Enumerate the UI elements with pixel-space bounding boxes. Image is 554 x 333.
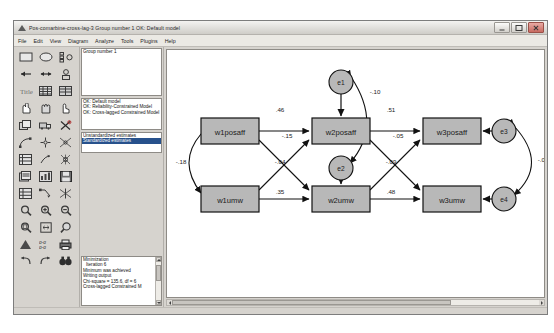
variable-node-w2umw[interactable]: w2umw (312, 186, 370, 212)
duplicate-objects-tool[interactable] (16, 117, 35, 133)
specification-search-tool[interactable] (56, 253, 75, 269)
menu-item-help[interactable]: Help (165, 38, 176, 44)
cov-w1posaff-w1umw-arrow (189, 134, 201, 193)
horizontal-scroll-thumb[interactable] (172, 300, 451, 305)
path-label-cov-e3-e4: -.05 (538, 156, 545, 163)
draw-covariance-double-arrow-tool[interactable] (36, 66, 55, 82)
minimize-button[interactable] (494, 22, 510, 33)
zoom-out-tool[interactable] (56, 202, 75, 218)
output-log-panel[interactable]: Minimization Iteration 6 Minimum was ach… (81, 256, 162, 306)
zoom-page-tool[interactable] (16, 219, 35, 235)
change-shape-of-objects-tool[interactable] (16, 134, 35, 150)
amos-graphics-window: Pos-comarbine-cross-lag-3 Group number 1… (13, 20, 548, 315)
move-objects-tool[interactable] (36, 117, 55, 133)
menu-item-analyze[interactable]: Analyze (95, 38, 114, 44)
undo-tool[interactable] (16, 253, 35, 269)
menu-item-file[interactable]: File (18, 38, 27, 44)
scroll-down-arrow[interactable] (156, 300, 161, 305)
erase-objects-tool[interactable] (56, 117, 75, 133)
object-properties-tool[interactable] (16, 185, 35, 201)
maximize-button[interactable] (511, 22, 527, 33)
error-label-e4: e4 (500, 196, 508, 203)
variable-node-w3umw[interactable]: w3umw (423, 186, 481, 212)
deselect-all-objects-tool[interactable] (56, 100, 75, 116)
rotate-indicators-tool[interactable] (36, 134, 55, 150)
select-one-object-tool[interactable] (16, 100, 35, 116)
error-label-e1: e1 (337, 79, 345, 86)
path-label-w2umw-w3posaff: -.09 (386, 158, 397, 165)
fit-to-page-tool[interactable] (36, 219, 55, 235)
draw-latent-with-indicators-tool[interactable] (56, 49, 75, 65)
window-titlebar: Pos-comarbine-cross-lag-3 Group number 1… (14, 21, 547, 35)
path-label-cov-w1posaff-w1umw: -.18 (176, 158, 187, 165)
cov-e3-e4-arrow (514, 126, 532, 195)
touch-up-a-variable-tool[interactable] (56, 151, 75, 167)
draw-path-single-arrow-tool[interactable] (16, 66, 35, 82)
model-row-cross-lagged[interactable]: OK: Cross-lagged Constrained Model (82, 110, 161, 115)
variable-node-w2posaff[interactable]: w2posaff (312, 118, 370, 144)
list-variables-in-dataset-tool[interactable] (36, 83, 55, 99)
loupe-magnifier-tool[interactable] (56, 219, 75, 235)
scroll-thumb[interactable] (156, 265, 161, 281)
preserve-symmetries-tool[interactable] (56, 185, 75, 201)
error-node-e1[interactable]: e1 (329, 70, 353, 94)
info-column: Group number 1 OK: Default model OK: Rel… (80, 47, 164, 307)
path-diagram-canvas[interactable]: e1 e2 e3 e4 (166, 49, 545, 298)
variable-label-w3posaff: w3posaff (436, 128, 468, 137)
select-all-objects-tool[interactable] (36, 100, 55, 116)
output-scrollbar[interactable] (155, 257, 161, 305)
estimates-row-standardized[interactable]: Standardized estimates (82, 138, 161, 143)
error-node-e2[interactable]: e2 (329, 156, 353, 180)
select-data-files-tool[interactable] (16, 168, 35, 184)
path-label-cov-e1-e2: -.10 (370, 88, 381, 95)
bayesian-estimation-tool[interactable] (16, 236, 35, 252)
menu-item-view[interactable]: View (50, 38, 61, 44)
close-button[interactable] (528, 22, 544, 33)
path-label-w1posaff-w2posaff: .46 (276, 106, 285, 113)
zoom-in-tool[interactable] (36, 202, 55, 218)
menu-bar: File Edit View Diagram Analyze Tools Plu… (14, 35, 547, 47)
variable-node-w1umw[interactable]: w1umw (201, 186, 259, 212)
path-label-w1umw-w2umw: .35 (276, 188, 285, 195)
multiple-group-analysis-tool[interactable]: σ-σσ-σ (36, 236, 55, 252)
models-panel[interactable]: OK: Default model OK: Reliability-Constr… (81, 98, 162, 130)
variable-label-w3umw: w3umw (438, 196, 465, 205)
add-unique-variable-tool[interactable] (56, 66, 75, 82)
scroll-up-arrow[interactable] (156, 257, 161, 262)
save-current-path-diagram-tool[interactable] (56, 168, 75, 184)
variable-label-w1posaff: w1posaff (214, 128, 246, 137)
app-icon (18, 24, 26, 32)
variable-node-w1posaff[interactable]: w1posaff (201, 118, 259, 144)
group-row[interactable]: Group number 1 (82, 49, 161, 54)
estimates-panel[interactable]: Unstandardized estimates Standardized es… (81, 132, 162, 153)
variable-label-w1umw: w1umw (216, 196, 243, 205)
menu-item-edit[interactable]: Edit (34, 38, 43, 44)
drag-properties-tool[interactable] (36, 185, 55, 201)
error-node-e3[interactable]: e3 (492, 119, 516, 143)
draw-observed-variable-tool[interactable] (16, 49, 35, 65)
menu-item-plugins[interactable]: Plugins (140, 38, 157, 44)
variable-node-w3posaff[interactable]: w3posaff (423, 118, 481, 144)
draw-unobserved-variable-tool[interactable] (36, 49, 55, 65)
window-body: Title (14, 47, 547, 307)
analysis-properties-tool[interactable] (36, 168, 55, 184)
path-diagram-svg: e1 e2 e3 e4 (167, 50, 545, 250)
path-label-w1posaff-w2umw: -.15 (282, 132, 293, 139)
info-spacer (81, 155, 162, 254)
reflect-indicators-tool[interactable] (56, 134, 75, 150)
variable-label-w2posaff: w2posaff (325, 128, 357, 137)
scroll-the-path-diagram-tool[interactable] (36, 151, 55, 167)
canvas-horizontal-scrollbar[interactable] (166, 299, 545, 306)
redo-tool[interactable] (36, 253, 55, 269)
groups-panel[interactable]: Group number 1 (81, 48, 162, 96)
figure-caption-tool[interactable]: Title (16, 83, 35, 99)
menu-item-tools[interactable]: Tools (121, 38, 133, 44)
error-node-e4[interactable]: e4 (492, 187, 516, 211)
list-variables-in-model-tool[interactable] (56, 83, 75, 99)
zoom-in-region-tool[interactable] (16, 202, 35, 218)
menu-item-diagram[interactable]: Diagram (68, 38, 88, 44)
move-parameter-values-tool[interactable] (16, 151, 35, 167)
scroll-right-arrow[interactable] (539, 300, 544, 305)
path-label-w2posaff-w3posaff: .51 (387, 106, 396, 113)
print-path-diagram-tool[interactable] (56, 236, 75, 252)
